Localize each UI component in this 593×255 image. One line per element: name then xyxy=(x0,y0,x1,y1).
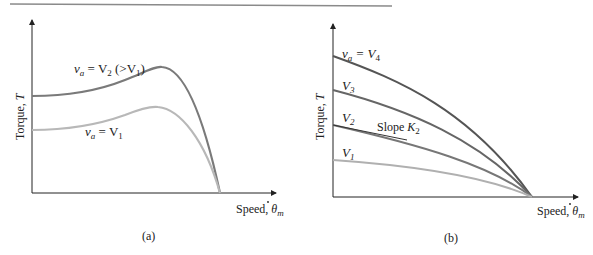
label-v1: V1 xyxy=(342,145,354,162)
panel-label-a: (a) xyxy=(142,229,155,243)
curve-v4 xyxy=(333,56,532,197)
curve-v3 xyxy=(333,90,532,197)
label-va-v2: va = V2 (>V1) xyxy=(74,61,145,78)
figure-canvas: va = V2 (>V1) va = V1 Torque, T Speed, θ… xyxy=(0,0,593,255)
panel-label-b: (b) xyxy=(444,231,458,245)
label-v3: V3 xyxy=(342,78,355,95)
dot-accent-b xyxy=(569,203,571,205)
panel-a: va = V2 (>V1) va = V1 Torque, T Speed, θ… xyxy=(13,20,284,243)
top-rule xyxy=(10,4,392,6)
curve-va-v1 xyxy=(32,107,220,193)
label-v2: V2 xyxy=(342,110,355,127)
x-axis-label-a: Speed, θm xyxy=(236,202,284,218)
dot-accent-a xyxy=(267,201,269,203)
panel-b: va = V4 V3 V2 V1 Slope K2 Torque, T Spee… xyxy=(313,24,585,245)
y-axis-label-b: Torque, T xyxy=(313,92,327,140)
annotation-slope-k2: Slope K2 xyxy=(377,120,420,136)
label-va-v4: va = V4 xyxy=(342,46,381,63)
x-axis-label-b: Speed, θm xyxy=(537,204,585,220)
label-va-v1: va = V1 xyxy=(85,124,123,141)
y-axis-label-a: Torque, T xyxy=(13,92,27,140)
